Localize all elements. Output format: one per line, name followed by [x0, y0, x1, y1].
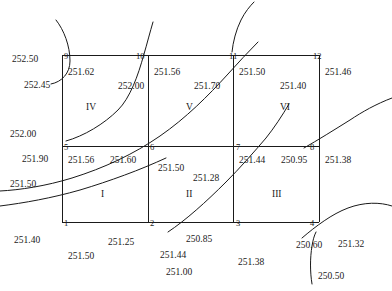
node-id-5: 5: [64, 143, 68, 152]
region-label-V: V: [186, 103, 193, 113]
elevation-label: 252.00: [10, 130, 36, 140]
elevation-label: 251.50: [68, 252, 94, 262]
elevation-label: 251.50: [158, 164, 184, 174]
elevation-label: 251.62: [68, 68, 94, 78]
elevation-label: 251.50: [239, 68, 265, 78]
elevation-label: 251.38: [238, 258, 264, 268]
elevation-label: 251.38: [325, 156, 351, 166]
node-id-3: 3: [236, 219, 240, 228]
elevation-label: 251.44: [160, 251, 186, 261]
elevation-label: 251.25: [108, 238, 134, 248]
node-id-11: 11: [229, 52, 237, 61]
elevation-label: 250.95: [281, 156, 307, 166]
node-id-10: 10: [136, 52, 145, 61]
region-label-I: I: [101, 190, 104, 200]
node-id-12: 12: [313, 52, 322, 61]
region-label-III: III: [272, 190, 282, 200]
node-id-6: 6: [150, 143, 154, 152]
node-id-4: 4: [310, 219, 314, 228]
elevation-label: 252.45: [24, 81, 50, 91]
elevation-label: 251.60: [110, 156, 136, 166]
region-label-IV: IV: [86, 103, 96, 113]
node-id-8: 8: [310, 143, 314, 152]
contour-right-upper: [304, 98, 392, 148]
elevation-label: 251.28: [193, 174, 219, 184]
elevation-label: 251.00: [166, 268, 192, 278]
diagram-canvas: [0, 0, 392, 291]
node-id-2: 2: [150, 219, 154, 228]
elevation-label: 250.60: [296, 241, 322, 251]
node-id-9: 9: [64, 52, 68, 61]
elevation-label: 251.44: [239, 156, 265, 166]
elevation-label: 251.40: [280, 82, 306, 92]
elevation-label: 251.32: [338, 240, 364, 250]
elevation-label: 251.90: [22, 155, 48, 165]
elevation-label: 251.56: [154, 68, 180, 78]
elevation-label: 251.50: [10, 180, 36, 190]
elevation-label: 250.85: [186, 235, 212, 245]
elevation-label: 252.50: [12, 55, 38, 65]
elevation-label: 251.70: [194, 82, 220, 92]
contour-top-center: [232, 2, 254, 52]
elevation-label: 251.40: [14, 236, 40, 246]
contour-main-diagonal: [0, 42, 258, 191]
elevation-label: 251.56: [68, 156, 94, 166]
node-id-1: 1: [64, 219, 68, 228]
elevation-label: 250.50: [318, 272, 344, 282]
region-label-VI: VI: [280, 103, 290, 113]
elevation-label: 252.00: [118, 82, 144, 92]
contour-bottom-diagonal: [168, 104, 289, 232]
region-label-II: II: [186, 190, 192, 200]
node-id-7: 7: [236, 143, 240, 152]
contour-diagram: 252.50252.45251.62252.00251.56251.70251.…: [0, 0, 392, 291]
elevation-label: 251.46: [325, 68, 351, 78]
